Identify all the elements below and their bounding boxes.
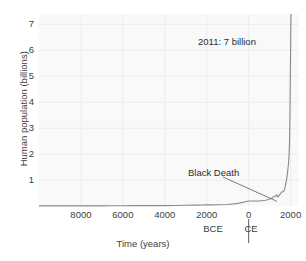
x-tick-4: 0 [229,210,269,220]
era-label-bce: BCE [196,224,230,234]
chart-canvas [0,0,306,261]
x-tick-3: 2000 [187,210,227,220]
x-tick-5: 2000 [271,210,306,220]
x-tick-1: 6000 [103,210,143,220]
annotation-2011-7-billion: 2011: 7 billion [198,37,256,47]
y-tick-7: 7 [20,19,34,29]
era-label-ce: CE [234,224,268,234]
x-tick-0: 8000 [61,210,101,220]
x-axis-title: Time (years) [98,239,188,249]
population-chart-figure: 1234567 800060004000200002000 Human popu… [0,0,306,261]
plot-background [39,14,299,206]
y-axis-title: Human population (billions) [19,39,29,179]
x-tick-2: 4000 [145,210,185,220]
annotation-black-death: Black Death [188,168,239,178]
